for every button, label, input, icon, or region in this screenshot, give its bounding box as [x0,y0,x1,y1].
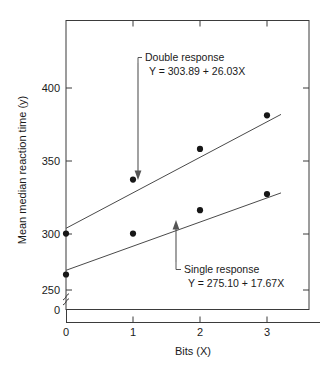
arrow-head-up-icon [173,220,180,230]
data-point [130,231,136,237]
top-axis-ticks [133,21,267,27]
annotation-double-response-line2: Y = 303.89 + 26.03X [149,65,245,77]
data-point [197,207,203,213]
data-point [264,191,270,197]
data-point [63,271,69,277]
y-axis-title: Mean median reaction time (y) [16,96,28,245]
y-tick-label-250: 250 [42,284,60,296]
annotation-single-response-line2: Y = 275.10 + 17.67X [188,277,284,289]
annotation-single-response-line1: Single response [184,263,259,275]
series-double-response-points [63,112,270,236]
x-tick-label-1: 1 [130,326,136,338]
chart-figure: 400 350 300 250 0 0 1 2 3 Bits (X) Mean … [0,0,330,365]
x-tick-label-3: 3 [264,326,270,338]
annotation-double-response-line1: Double response [145,51,225,63]
annotation-double-response: Double response Y = 303.89 + 26.03X [135,51,246,180]
y-tick-label-300: 300 [42,228,60,240]
data-point [63,231,69,237]
data-point [197,146,203,152]
data-point [130,177,136,183]
fit-line-single-response [66,193,281,270]
fit-line-double-response [66,114,281,228]
y-axis-ticks [66,88,72,290]
annotation-single-response: Single response Y = 275.10 + 17.67X [173,220,285,289]
y-axis-origin-label: 0 [54,304,60,316]
scatter-plot-svg: 400 350 300 250 0 0 1 2 3 Bits (X) Mean … [0,0,330,365]
y-tick-label-400: 400 [42,82,60,94]
right-axis-ticks [303,88,309,290]
x-tick-label-2: 2 [197,326,203,338]
y-tick-label-350: 350 [42,155,60,167]
x-axis-ticks [133,317,267,323]
x-tick-label-0: 0 [63,326,69,338]
x-axis-title: Bits (X) [175,345,211,357]
data-point [264,112,270,118]
